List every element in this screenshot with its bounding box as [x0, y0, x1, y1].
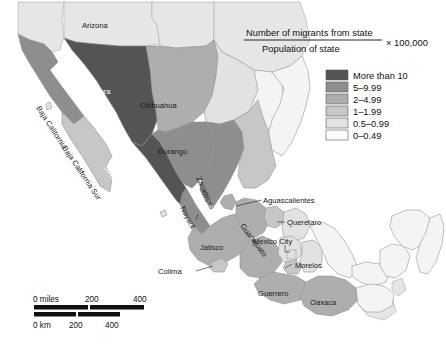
legend-swatch-5 [326, 130, 348, 140]
title-numerator: Number of migrants from state [246, 27, 373, 38]
label-aguascalientes: Aguascalientes [263, 196, 315, 205]
label-oaxaca: Oaxaca [310, 298, 337, 307]
label-mexico-city: Mexico City [253, 237, 292, 246]
legend-label-5: 0–0.49 [353, 131, 381, 141]
scale-miles-bar-2 [90, 305, 144, 310]
scale-km-bar-2 [78, 312, 120, 317]
title-denominator: Population of state [262, 43, 340, 54]
migration-map: Arizona Baja California Baja California … [0, 0, 446, 347]
scale-miles-label: 0 miles [33, 295, 59, 304]
scale-km-tick-400: 400 [105, 321, 119, 330]
label-arizona: Arizona [82, 21, 109, 30]
label-morelos: Morelos [295, 261, 322, 270]
legend-swatch-3 [326, 106, 348, 116]
legend-label-2: 2–4.99 [353, 95, 381, 105]
label-colima: Colima [158, 267, 182, 276]
legend-label-4: 0.5–0.99 [353, 119, 389, 129]
legend-swatch-2 [326, 94, 348, 104]
title-multiplier: × 100,000 [386, 37, 428, 48]
label-queretaro: Queretaro [287, 218, 321, 227]
label-guerrero: Guerrero [258, 289, 288, 298]
scale-miles-tick-200: 200 [85, 295, 99, 304]
label-jalisco: Jalisco [200, 243, 223, 252]
state-mexico-city [287, 250, 296, 259]
scale-km-tick-200: 200 [69, 321, 83, 330]
legend-label-0: More than 10 [353, 71, 408, 81]
legend-label-1: 5–9.99 [353, 83, 381, 93]
legend-swatch-4 [326, 118, 348, 128]
label-sonora: Sonora [86, 87, 111, 96]
label-durango: Durango [158, 147, 187, 156]
scale-km-label: 0 km [33, 321, 51, 330]
legend-swatch-0 [326, 70, 348, 80]
legend-label-3: 1–1.99 [353, 107, 381, 117]
foreign-arizona [64, 2, 160, 46]
legend-swatch-1 [326, 82, 348, 92]
scale-miles-tick-400: 400 [133, 295, 147, 304]
label-chihuahua: Chihuahua [140, 101, 178, 110]
foreign-newmexico [152, 2, 214, 48]
scale-miles-bar-1 [34, 305, 88, 310]
scale-km-bar-1 [34, 312, 76, 317]
map-svg: Arizona Baja California Baja California … [0, 0, 446, 347]
